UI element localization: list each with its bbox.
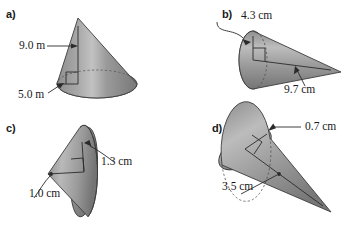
dimension-label-d-radius: 0.7 cm (305, 120, 336, 132)
dimension-label-a-height: 9.0 m (19, 39, 45, 51)
cone-figure-c (0, 114, 180, 228)
cone-body-a (57, 18, 137, 98)
dimension-label-c-height: 1.0 cm (29, 187, 60, 199)
panel-b: b) (181, 0, 361, 114)
leader-dot-d-height (277, 172, 281, 176)
panel-a: a) (0, 0, 180, 114)
leader-line-b-radius (217, 22, 243, 38)
dimension-label-a-radius: 5.0 m (18, 88, 44, 100)
panel-c: c) (0, 114, 180, 228)
dimension-label-b-height: 9.7 cm (284, 83, 315, 95)
dimension-label-d-height: 3.5 cm (222, 180, 253, 192)
leader-dot-c-height (49, 172, 53, 176)
dimension-label-c-radius: 1.3 cm (101, 155, 132, 167)
figure-canvas: a) (0, 0, 361, 228)
leader-arrow-d-radius (268, 124, 276, 131)
cone-body-d (221, 102, 331, 212)
panel-d: d) (181, 114, 361, 228)
dimension-label-b-radius: 4.3 cm (241, 9, 272, 21)
